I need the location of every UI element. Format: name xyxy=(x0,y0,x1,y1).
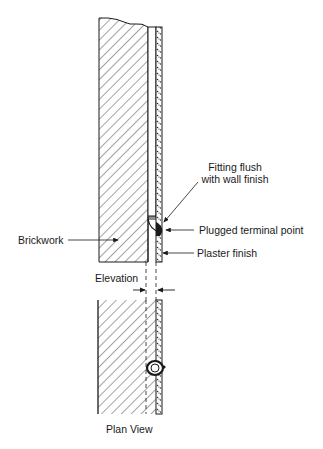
fitting-label-line1: Fitting flush xyxy=(198,161,272,173)
elevation-label: Elevation xyxy=(95,272,138,284)
plaster-finish-plan xyxy=(156,300,162,414)
plugged-terminal-label: Plugged terminal point xyxy=(199,224,303,236)
dimension-markers xyxy=(133,262,175,300)
plan-section xyxy=(98,300,166,414)
conduit-plan-inner xyxy=(151,364,159,372)
brickwork-elevation xyxy=(99,18,148,262)
brickwork-plan xyxy=(98,300,156,414)
plaster-finish-label: Plaster finish xyxy=(197,247,257,259)
brickwork-label: Brickwork xyxy=(18,234,64,246)
fitting-leader xyxy=(164,182,198,222)
conduit-channel xyxy=(148,27,156,217)
elevation-section xyxy=(99,18,162,262)
fitting-flush-label: Fitting flush with wall finish xyxy=(198,161,272,185)
plan-view-label: Plan View xyxy=(106,423,153,435)
fitting-label-line2: with wall finish xyxy=(198,173,272,185)
